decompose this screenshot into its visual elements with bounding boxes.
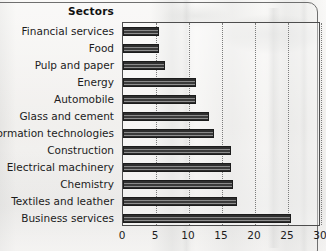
gridline <box>288 23 289 225</box>
chart-title: Sectors <box>0 5 118 17</box>
bar <box>123 214 291 223</box>
bar-row <box>123 160 231 176</box>
x-axis-tick-label: 25 <box>280 228 293 242</box>
y-axis-label: Food <box>89 40 114 56</box>
bar <box>123 61 165 70</box>
bar-row <box>123 194 237 210</box>
y-axis-label: Pulp and paper <box>35 57 114 73</box>
y-axis-label: Business services <box>21 210 114 226</box>
y-axis-category-labels: Financial servicesFoodPulp and paperEner… <box>0 22 118 226</box>
sector-bar-chart: Sectors Financial servicesFoodPulp and p… <box>0 0 326 251</box>
bar <box>123 27 159 36</box>
bar-row <box>123 109 209 125</box>
bar-row <box>123 143 231 159</box>
x-axis-tick-label: 10 <box>181 228 194 242</box>
bar <box>123 146 231 155</box>
bar <box>123 44 159 53</box>
bar-row <box>123 126 214 142</box>
bar <box>123 180 233 189</box>
y-axis-label: Information technologies <box>0 125 114 141</box>
bar-row <box>123 24 159 40</box>
y-axis-label: Chemistry <box>60 176 114 192</box>
bar <box>123 197 237 206</box>
bar <box>123 129 214 138</box>
x-axis-tick-label: 0 <box>119 228 126 242</box>
bar-row <box>123 211 291 227</box>
bar <box>123 112 209 121</box>
bar <box>123 163 231 172</box>
x-axis-tick-label: 15 <box>214 228 227 242</box>
y-axis-label: Energy <box>77 74 114 90</box>
bar-row <box>123 177 233 193</box>
bar-row <box>123 92 196 108</box>
y-axis-label: Textiles and leather <box>11 193 114 209</box>
gridline <box>255 23 256 225</box>
bar <box>123 78 196 87</box>
bar-row <box>123 58 165 74</box>
bar-row <box>123 41 159 57</box>
y-axis-label: Financial services <box>22 23 114 39</box>
plot-area <box>122 22 320 226</box>
x-axis-tick-labels: 051015202530 <box>0 228 326 244</box>
gridline <box>321 23 322 225</box>
chart-content: Sectors Financial servicesFoodPulp and p… <box>0 0 326 251</box>
y-axis-label: Electrical machinery <box>7 159 114 175</box>
x-axis-tick-label: 5 <box>152 228 159 242</box>
bar <box>123 95 196 104</box>
bar-row <box>123 75 196 91</box>
y-axis-label: Construction <box>47 142 114 158</box>
y-axis-label: Glass and cement <box>19 108 114 124</box>
y-axis-label: Automobile <box>54 91 114 107</box>
x-axis-tick-label: 20 <box>247 228 260 242</box>
x-axis-tick-label: 30 <box>313 228 326 242</box>
